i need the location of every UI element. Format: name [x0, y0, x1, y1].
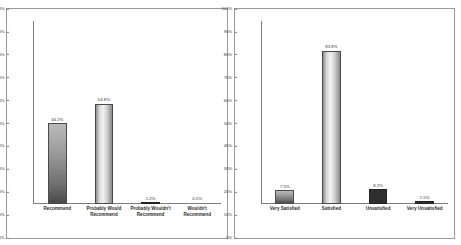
category-label: Probably Wouldn't Recommend: [127, 206, 174, 232]
y-tick-label: 20%: [224, 190, 235, 194]
bar-value-label: 44.2%: [51, 118, 63, 122]
plot-area-right: 100% 90% 80% 70% 60% 50% 40% 30% 20% 10%…: [235, 9, 455, 238]
bar-slot: 8.2%: [355, 21, 402, 204]
y-tick-label: 80%: [224, 53, 235, 57]
bar-group-right: 7.5% 83.8% 8.2% 1.5%: [262, 21, 449, 204]
bar-value-label: 54.8%: [98, 98, 110, 102]
bar-very-satisfied: 7.5%: [275, 190, 294, 204]
y-tick-label: 90%: [224, 30, 235, 34]
y-tick-label: 20%: [0, 190, 7, 194]
bar-slot: 1.2%: [127, 21, 174, 204]
y-tick-label: 70%: [224, 76, 235, 80]
y-tick-label: 30%: [224, 167, 235, 171]
y-tick-label: 80%: [0, 53, 7, 57]
y-tick-label: 50%: [224, 121, 235, 125]
bar-value-label: 0.5%: [192, 197, 202, 201]
bar-value-label: 8.2%: [373, 184, 383, 188]
bar-slot: 7.5%: [262, 21, 309, 204]
y-tick-label: 100%: [221, 7, 234, 11]
y-tick-label: 40%: [224, 144, 235, 148]
category-labels-left: Recommend Probably Would Recommend Proba…: [34, 206, 221, 232]
bar-group-left: 44.2% 54.8% 1.2% 0.5%: [34, 21, 221, 204]
bar-slot: 1.5%: [401, 21, 448, 204]
plot-area-left: 100% 90% 80% 70% 60% 50% 40% 30% 20% 10%…: [7, 9, 227, 238]
y-tick-label: 60%: [0, 98, 7, 102]
y-tick-label: 70%: [0, 76, 7, 80]
bar-probably-wouldnt-recommend: 1.2%: [141, 202, 160, 204]
y-tick-label: 0%: [0, 236, 7, 240]
y-tick-label: 10%: [224, 213, 235, 217]
bar-unsatisfied: 8.2%: [369, 189, 388, 204]
bar-recommend: 44.2%: [48, 123, 67, 204]
y-tick-label: 90%: [0, 30, 7, 34]
category-label: Wouldn't Recommend: [174, 206, 221, 232]
bar-value-label: 83.8%: [325, 45, 337, 49]
bar-slot: 44.2%: [34, 21, 81, 204]
y-tick-label: 100%: [0, 7, 7, 11]
y-tick-label: 40%: [0, 144, 7, 148]
bar-value-label: 1.2%: [146, 197, 156, 201]
category-label: Very Satisfied: [262, 206, 309, 232]
y-tick-label: 30%: [0, 167, 7, 171]
y-tick-label: 60%: [224, 98, 235, 102]
bar-slot: 83.8%: [308, 21, 355, 204]
bar-slot: 0.5%: [174, 21, 221, 204]
category-label: Probably Would Recommend: [81, 206, 128, 232]
satisfaction-chart-panel: 100% 90% 80% 70% 60% 50% 40% 30% 20% 10%…: [234, 8, 456, 239]
category-label: Very Unsatisfied: [401, 206, 448, 232]
bar-value-label: 1.5%: [420, 196, 430, 200]
category-label: Recommend: [34, 206, 81, 232]
category-label: Satisfied: [308, 206, 355, 232]
y-tick-label: 0%: [226, 236, 235, 240]
category-labels-right: Very Satisfied Satisfied Unsatisfied Ver…: [262, 206, 449, 232]
category-label: Unsatisfied: [355, 206, 402, 232]
bar-very-unsatisfied: 1.5%: [415, 201, 434, 204]
bar-slot: 54.8%: [81, 21, 128, 204]
chart-sheet: 100% 90% 80% 70% 60% 50% 40% 30% 20% 10%…: [0, 0, 461, 245]
bar-probably-would-recommend: 54.8%: [95, 104, 114, 204]
bar-wouldnt-recommend: 0.5%: [188, 203, 207, 204]
bar-value-label: 7.5%: [280, 185, 290, 189]
recommendation-chart-panel: 100% 90% 80% 70% 60% 50% 40% 30% 20% 10%…: [6, 8, 228, 239]
y-tick-label: 10%: [0, 213, 7, 217]
bar-satisfied: 83.8%: [322, 51, 341, 204]
y-tick-label: 50%: [0, 121, 7, 125]
